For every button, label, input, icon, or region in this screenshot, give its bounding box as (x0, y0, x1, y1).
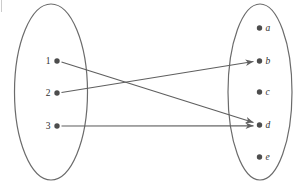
left-set-ellipse (15, 4, 88, 180)
mapping-diagram-svg: 123abcde (0, 0, 297, 184)
left-element-label-1: 1 (46, 56, 51, 66)
left-element-dot-3 (54, 123, 59, 128)
right-element-label-d: d (266, 120, 271, 130)
left-element-dot-2 (54, 90, 59, 95)
left-element-label-3: 3 (46, 121, 51, 131)
right-element-label-e: e (266, 152, 270, 162)
right-element-dot-d (257, 122, 262, 127)
right-element-label-a: a (266, 23, 271, 33)
right-element-label-b: b (266, 56, 271, 66)
right-element-label-c: c (266, 87, 271, 97)
left-element-dot-1 (54, 58, 59, 63)
right-element-dot-e (257, 154, 262, 159)
right-element-dot-c (257, 89, 262, 94)
arrow-1-to-d (62, 62, 254, 123)
left-element-label-2: 2 (46, 88, 51, 98)
right-element-dot-a (257, 25, 262, 30)
arrow-2-to-b (62, 62, 254, 93)
mapping-diagram: 123abcde (0, 0, 297, 184)
right-element-dot-b (257, 58, 262, 63)
